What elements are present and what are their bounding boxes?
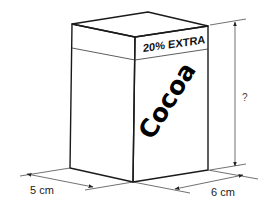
height-label: ? [242, 92, 248, 103]
depth-label: 6 cm [211, 186, 235, 198]
cocoa-box-diagram: 20% EXTRA Cocoa ? 5 cm 6 cm [0, 0, 272, 207]
band-line-left [72, 48, 135, 60]
height-dimension [210, 19, 246, 170]
brand-label: Cocoa [132, 57, 201, 144]
box-left-face [70, 24, 135, 182]
box-top-face [72, 12, 208, 37]
width-label: 5 cm [30, 184, 54, 196]
depth-dimension [133, 170, 258, 193]
